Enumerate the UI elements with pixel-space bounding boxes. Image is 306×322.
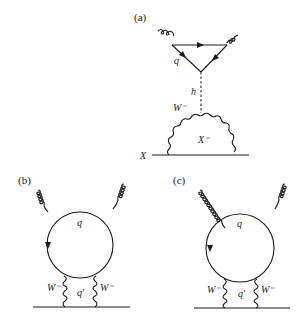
w-right-b [93,276,97,307]
label-w-right-b: W⁻ [100,282,114,293]
gluon-a-right [227,35,238,43]
label-q-c: q [237,218,242,229]
gluon-b-right [113,184,125,209]
panel-label-b: (b) [18,174,31,187]
label-x-external: X [139,150,147,161]
gluon-a-left [158,30,174,37]
label-h: h [191,86,196,97]
loop-arrow-c [207,245,213,252]
label-w-right-c: W⁻ [261,284,275,295]
diagram-a: (a) q h W⁻ X⁻ X [134,11,249,161]
label-qprime-c: q′ [238,288,246,299]
diagram-c: (c) q q′ W⁻ W⁻ [173,174,290,308]
label-w-left-b: W⁻ [47,282,61,293]
panel-label-c: (c) [173,174,186,187]
gluon-b-left [37,190,48,212]
w-left-c [223,279,227,308]
label-w-left-c: W⁻ [207,284,221,295]
loop-arrow-b [45,242,51,249]
diagram-b: (b) q q′ W⁻ W⁻ [18,174,130,307]
label-qprime-b: q′ [77,287,85,298]
w-right-c [254,279,258,308]
gluon-c-right [275,184,286,209]
label-w-a: W⁻ [173,102,187,113]
gluon-c-crossing [199,190,225,228]
w-left-b [63,276,67,307]
feynman-diagrams: (a) q h W⁻ X⁻ X (b) q q′ W⁻ W⁻ (c) [0,0,306,322]
arrow-top [197,42,204,48]
label-q-b: q [77,217,82,228]
panel-label-a: (a) [134,11,147,24]
label-q-a: q [174,55,179,66]
label-x-loop: X⁻ [197,134,210,145]
